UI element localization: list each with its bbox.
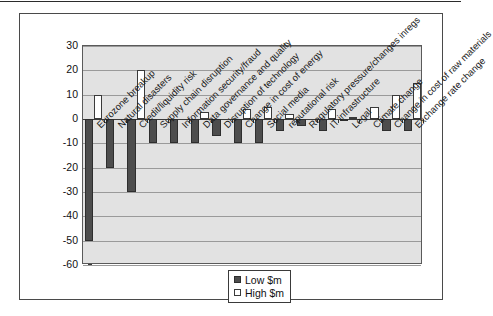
y-axis-tick-label: 30 bbox=[34, 40, 78, 50]
top-divider bbox=[0, 1, 461, 2]
category-tickmark bbox=[253, 119, 254, 123]
bar-low bbox=[127, 119, 135, 192]
category-tickmark bbox=[168, 119, 169, 123]
bar-low bbox=[149, 119, 157, 143]
y-axis-tick-label: -40 bbox=[34, 210, 78, 220]
category-label: Exchange rate change bbox=[413, 56, 487, 130]
bar-high bbox=[137, 70, 145, 119]
gridline bbox=[83, 265, 421, 266]
bar-high bbox=[264, 107, 272, 119]
bar-high bbox=[94, 95, 102, 119]
y-axis-tick-label: -60 bbox=[34, 259, 78, 269]
category-tickmark bbox=[296, 119, 297, 123]
gridline bbox=[83, 46, 421, 47]
gridline bbox=[83, 70, 421, 71]
legend-item-low: Low $m bbox=[234, 273, 284, 286]
bar-low bbox=[85, 119, 93, 241]
y-axis-tick-label: -10 bbox=[34, 137, 78, 147]
plot-area bbox=[82, 45, 422, 264]
bar-low bbox=[106, 119, 114, 168]
legend-label-low: Low $m bbox=[245, 274, 282, 286]
bar-high bbox=[285, 114, 293, 119]
bar-low bbox=[276, 119, 284, 131]
bar-low bbox=[212, 119, 220, 136]
y-axis-tick-label: 0 bbox=[34, 113, 78, 123]
category-tickmark bbox=[274, 119, 275, 123]
category-tickmark bbox=[359, 119, 360, 123]
bar-high bbox=[392, 95, 400, 119]
y-axis: 3020100-10-20-30-40-50-60 bbox=[30, 45, 78, 264]
bar-low bbox=[191, 119, 199, 143]
category-tickmark bbox=[381, 119, 382, 123]
y-axis-tick-label: -50 bbox=[34, 235, 78, 245]
category-tickmark bbox=[211, 119, 212, 123]
bar-high bbox=[328, 109, 336, 119]
category-tickmark bbox=[317, 119, 318, 123]
category-tickmark bbox=[423, 119, 424, 123]
bar-low bbox=[382, 119, 390, 131]
category-tickmark bbox=[402, 119, 403, 123]
bar-high bbox=[243, 109, 251, 119]
gridline bbox=[83, 216, 421, 217]
bar-low bbox=[255, 119, 263, 143]
chart-frame: 3020100-10-20-30-40-50-60 Eurozone break… bbox=[19, 13, 443, 300]
y-axis-tick-label: -20 bbox=[34, 162, 78, 172]
y-axis-tick-label: 10 bbox=[34, 89, 78, 99]
category-tickmark bbox=[126, 119, 127, 123]
category-tickmark bbox=[232, 119, 233, 123]
y-axis-tick-label: -30 bbox=[34, 186, 78, 196]
bar-low bbox=[340, 119, 348, 121]
category-tickmark bbox=[189, 119, 190, 123]
legend-label-high: High $m bbox=[245, 287, 284, 299]
legend-item-high: High $m bbox=[234, 286, 284, 299]
legend-swatch-low-icon bbox=[234, 276, 241, 283]
category-tickmark bbox=[104, 119, 105, 123]
bar-low bbox=[319, 119, 327, 131]
chart-legend: Low $m High $m bbox=[228, 270, 291, 303]
bar-low bbox=[234, 119, 242, 143]
category-tickmark bbox=[147, 119, 148, 123]
bar-high bbox=[349, 117, 357, 119]
bar-low bbox=[404, 119, 412, 131]
bar-low bbox=[297, 119, 305, 126]
bar-low bbox=[170, 119, 178, 143]
legend-swatch-high-icon bbox=[234, 289, 241, 296]
bar-high bbox=[200, 112, 208, 119]
category-tickmark bbox=[338, 119, 339, 123]
bar-high bbox=[370, 107, 378, 119]
gridline bbox=[83, 241, 421, 242]
y-axis-tick-label: 20 bbox=[34, 64, 78, 74]
gridline bbox=[83, 95, 421, 96]
bar-high bbox=[413, 83, 421, 120]
gridline bbox=[83, 192, 421, 193]
